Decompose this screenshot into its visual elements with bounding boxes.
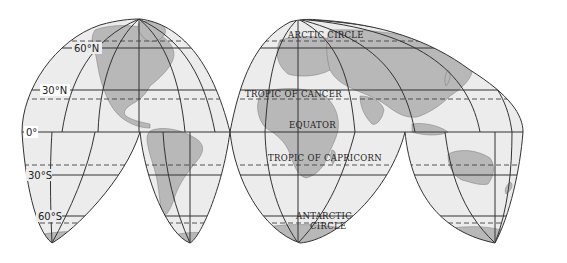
label-30s: 30°S xyxy=(28,170,52,181)
tropic-of-cancer-label: TROPIC OF CANCER xyxy=(245,89,342,99)
antarctica-east xyxy=(440,227,515,263)
antarctic-circle-label-2: CIRCLE xyxy=(310,221,346,231)
label-60n: 60°N xyxy=(74,43,99,54)
equator-label: EQUATOR xyxy=(289,120,336,130)
label-equator-0: 0° xyxy=(26,127,37,138)
arctic-circle-label: ARCTIC CIRCLE xyxy=(287,30,364,40)
antarctic-circle-label-1: ANTARCTIC xyxy=(295,211,352,221)
antarctica xyxy=(40,231,130,263)
label-30n: 30°N xyxy=(42,85,67,96)
tropic-of-capricorn-label: TROPIC OF CAPRICORN xyxy=(268,153,382,163)
label-60s: 60°S xyxy=(38,211,62,222)
world-map: 60°N 30°N 0° 30°S 60°S ARCTIC CIRCLE TRO… xyxy=(0,0,567,263)
